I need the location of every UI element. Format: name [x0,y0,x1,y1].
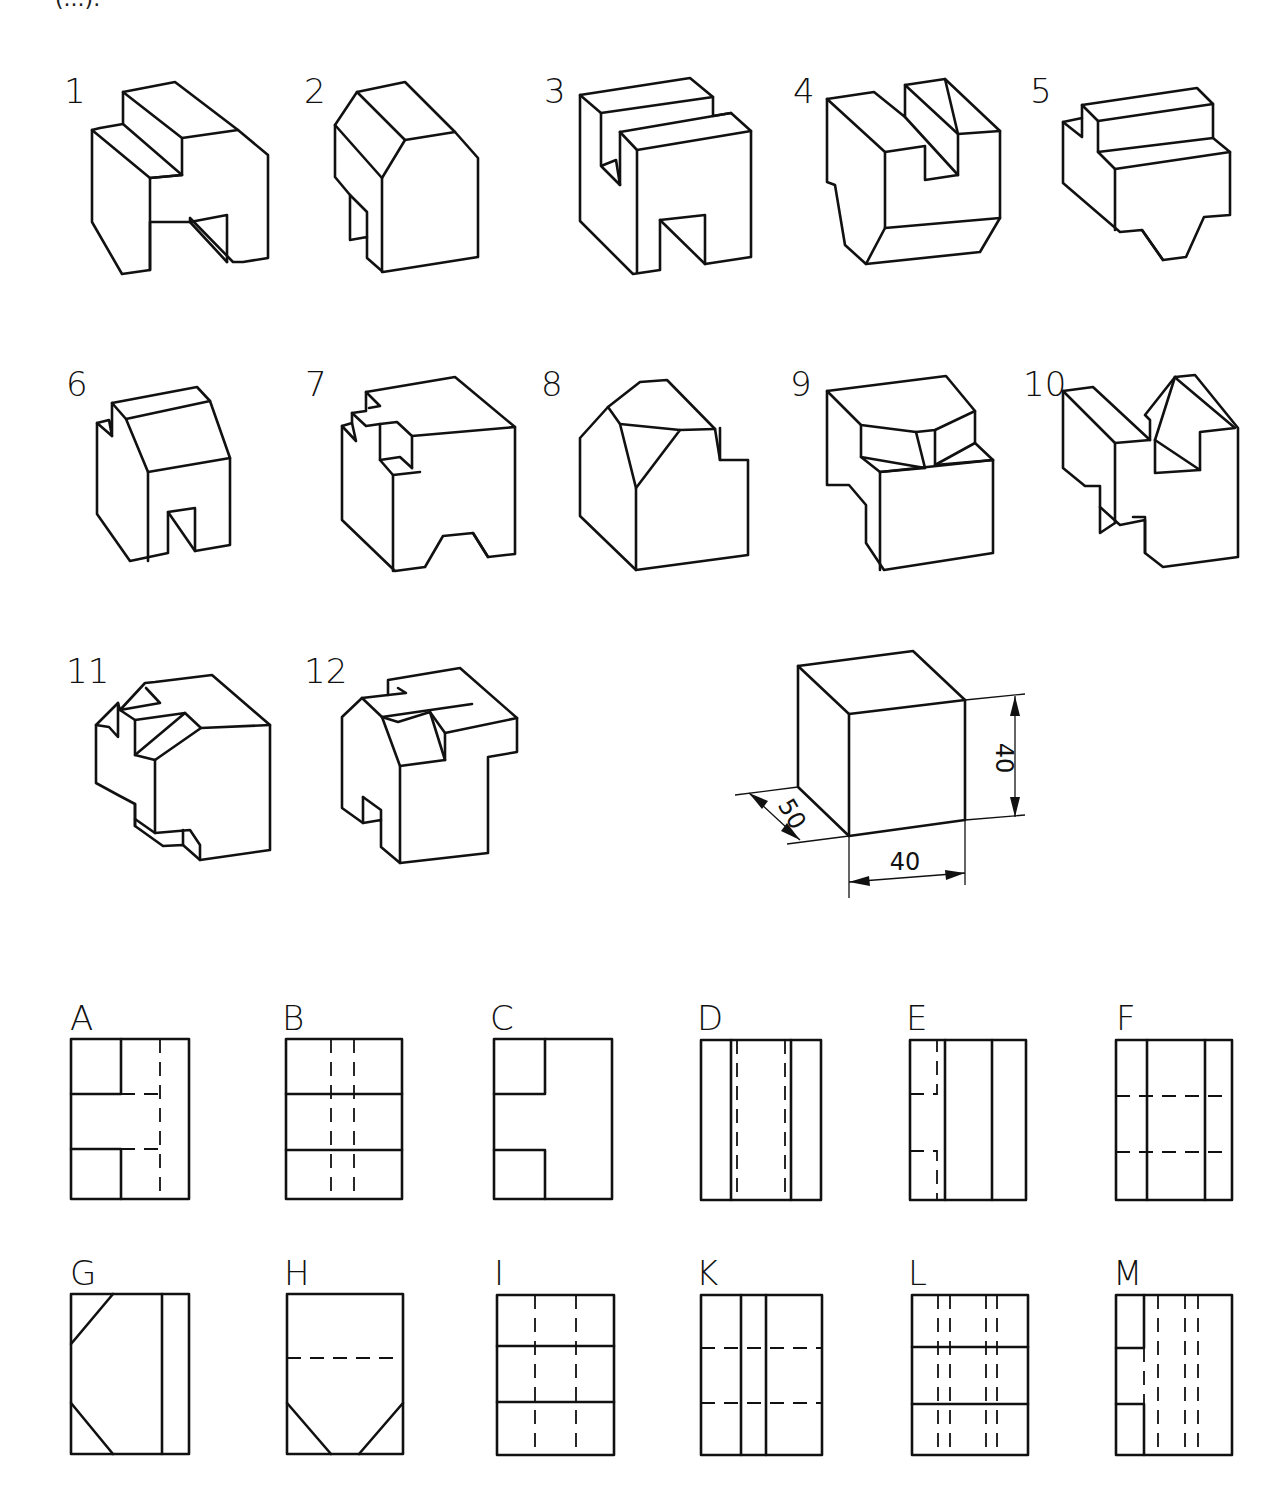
view-C: C [490,998,612,1199]
view-letter: H [284,1253,310,1293]
view-letter: F [1116,998,1136,1038]
figure-number: 3 [544,71,566,111]
view-letter: E [906,998,927,1038]
figure-7: 7 [305,364,515,571]
figure-number: 10 [1023,364,1066,404]
view-I: I [494,1253,614,1455]
view-K: K [696,1253,822,1455]
figure-number: 6 [66,364,88,404]
view-M: M [1113,1253,1232,1455]
figure-10: 10 [1023,364,1238,567]
view-letter: A [70,998,93,1038]
figure-2: 2 [304,71,478,272]
view-letter: M [1113,1253,1142,1293]
view-B: B [282,998,402,1199]
view-D: D [697,998,821,1200]
view-H: H [284,1253,403,1454]
figure-number: 9 [790,364,812,404]
figure-5: 5 [1030,71,1230,260]
reference-block: 40 40 50 [735,651,1025,898]
view-letter: D [697,998,723,1038]
view-letter: K [696,1253,718,1293]
view-letter: B [282,998,304,1038]
width-dimension: 40 [890,848,921,876]
figure-number: 4 [793,71,815,111]
height-dimension: 40 [990,743,1018,774]
depth-dimension: 50 [772,794,812,834]
figure-4: 4 [793,71,1000,264]
figure-number: 8 [541,364,563,404]
caption-partial: (...). [55,0,100,11]
figure-number: 2 [304,71,326,111]
view-letter: C [490,998,514,1038]
figure-number: 7 [305,364,327,404]
figure-6: 6 [66,364,230,561]
view-G: G [70,1253,189,1454]
view-letter: G [70,1253,96,1293]
view-letter: L [908,1253,927,1293]
view-E: E [906,998,1026,1200]
figure-3: 3 [544,71,751,274]
view-A: A [70,998,189,1199]
exercise-sheet: (...). 1 2 3 4 [0,0,1279,1508]
view-F: F [1116,998,1232,1200]
view-L: L [908,1253,1028,1455]
figure-number: 5 [1030,71,1052,111]
figure-8: 8 [541,364,748,570]
view-letter: I [494,1253,504,1293]
figure-1: 1 [64,71,268,274]
figure-number: 12 [304,651,347,691]
figure-11: 11 [66,651,270,860]
figure-number: 1 [64,71,86,111]
figure-9: 9 [790,364,993,570]
figure-12: 12 [304,651,517,863]
figure-number: 11 [66,651,109,691]
